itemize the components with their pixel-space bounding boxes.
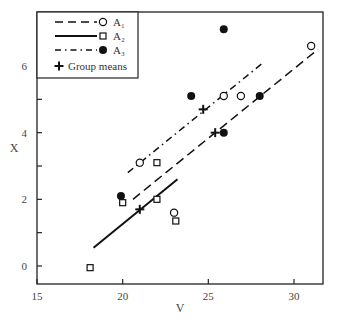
plus-marker xyxy=(199,105,208,114)
filled-circle-marker xyxy=(220,25,228,33)
filled-circle-marker xyxy=(187,92,195,100)
legend-label: A₃ xyxy=(113,44,125,56)
open-square-marker xyxy=(100,33,106,39)
y-tick-label: 0 xyxy=(22,260,28,272)
filled-circle-marker xyxy=(99,46,107,54)
x-axis: 15202530 xyxy=(32,279,301,302)
x-tick-label: 15 xyxy=(32,290,44,302)
open-square-marker xyxy=(154,196,160,202)
legend-label: A₂ xyxy=(113,30,125,42)
filled-circle-marker xyxy=(220,129,228,137)
open-square-marker xyxy=(120,200,126,206)
legend-label: Group means xyxy=(68,60,127,72)
regression-lines xyxy=(94,49,318,247)
open-circle-marker xyxy=(170,209,177,216)
open-circle-marker xyxy=(237,92,244,99)
filled-circle-marker xyxy=(117,192,125,200)
filled-circle-marker xyxy=(256,92,264,100)
fit-line xyxy=(94,179,178,247)
open-circle-marker xyxy=(99,18,106,25)
open-square-marker xyxy=(154,160,160,166)
x-tick-label: 25 xyxy=(203,290,215,302)
x-axis-label: V xyxy=(176,301,185,315)
open-circle-marker xyxy=(220,92,227,99)
x-tick-label: 20 xyxy=(117,290,129,302)
open-circle-marker xyxy=(136,159,143,166)
scatter-chart: 15202530 0246 V X A₁A₂A₃Group means xyxy=(0,0,337,329)
x-tick-label: 30 xyxy=(289,290,301,302)
open-circle-marker xyxy=(308,42,315,49)
fit-line xyxy=(133,49,318,199)
legend-label: A₁ xyxy=(113,16,125,28)
open-square-marker xyxy=(87,265,93,271)
fit-line xyxy=(128,63,263,173)
y-tick-label: 6 xyxy=(22,60,28,72)
open-square-marker xyxy=(173,218,179,224)
y-tick-label: 2 xyxy=(22,193,28,205)
y-axis-label: X xyxy=(10,141,19,155)
y-tick-label: 4 xyxy=(22,127,28,139)
legend: A₁A₂A₃Group means xyxy=(37,12,138,78)
